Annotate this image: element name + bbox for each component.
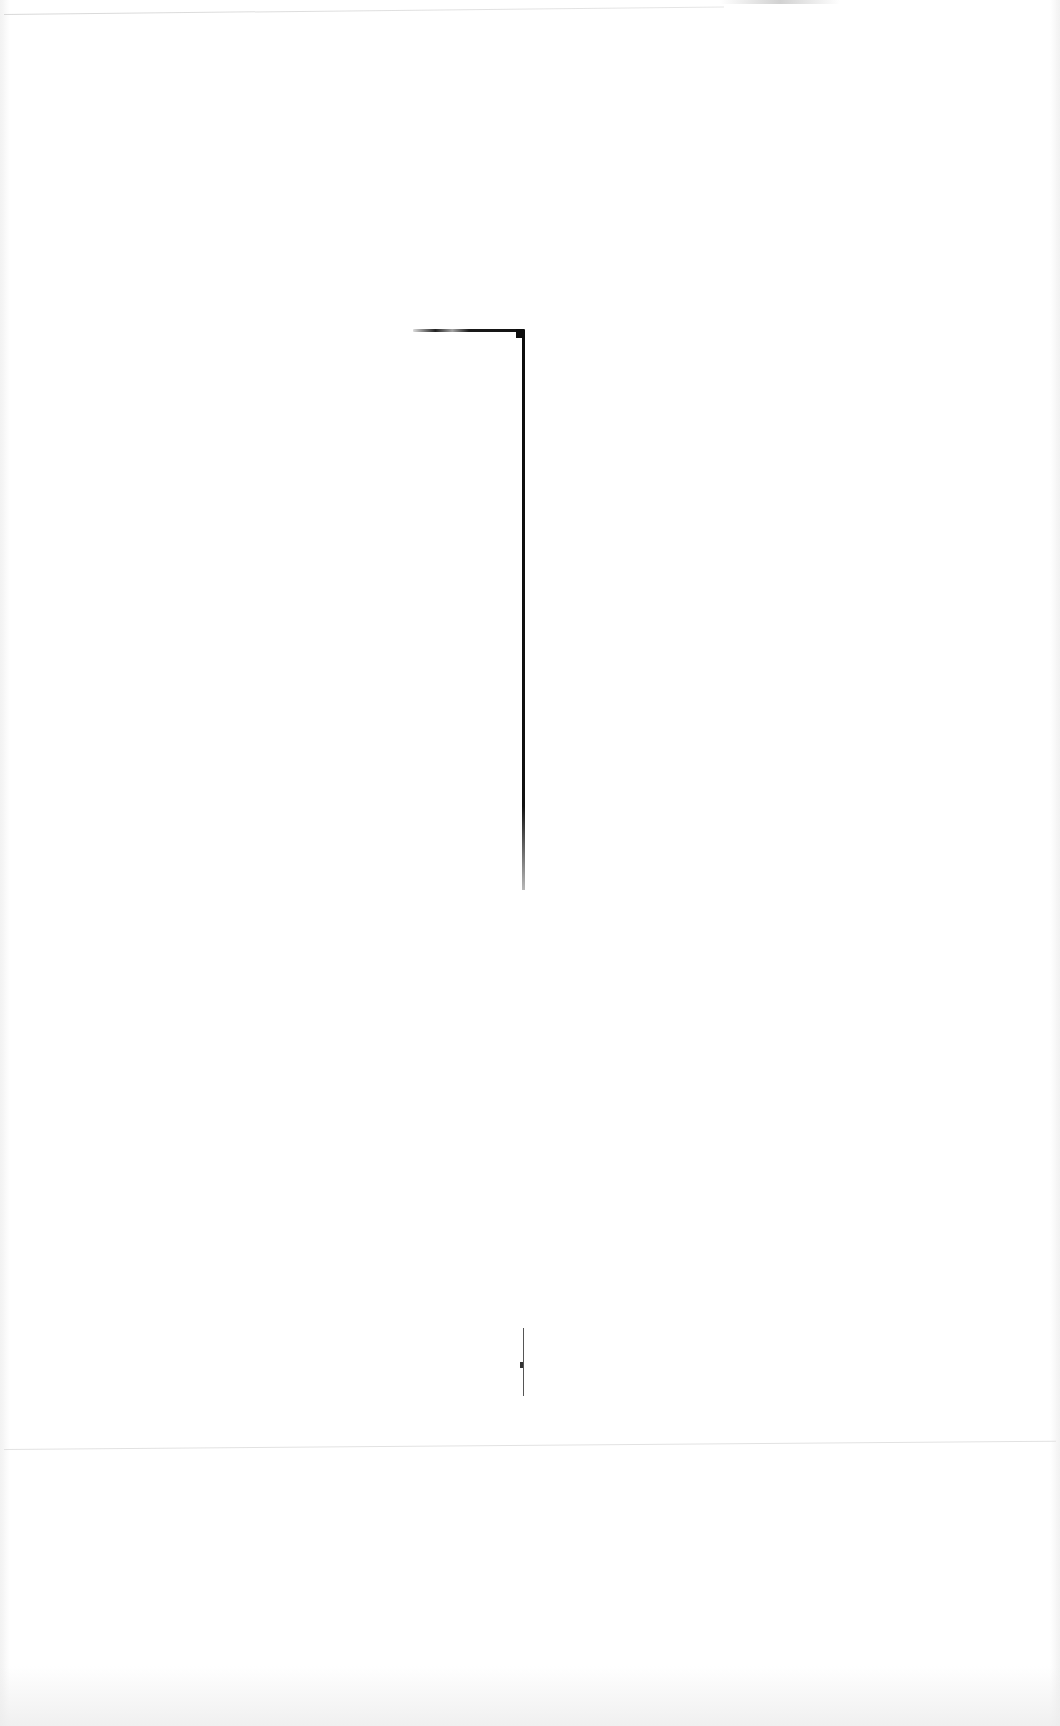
horizontal-ink-stroke xyxy=(413,329,525,332)
bottom-shadow xyxy=(0,1666,1060,1726)
page-shadow-right xyxy=(1050,0,1060,1726)
page-top-shadow xyxy=(720,0,840,4)
short-vertical-ink-stroke xyxy=(523,1328,524,1396)
page-shadow-left xyxy=(0,0,10,1726)
vertical-ink-stroke xyxy=(522,330,525,890)
ink-tick-mark xyxy=(520,1362,523,1368)
scanned-page xyxy=(4,0,1056,1726)
